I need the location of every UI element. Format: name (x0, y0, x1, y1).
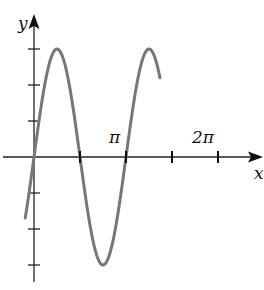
x-axis-label: x (254, 163, 264, 183)
graph-canvas: y x π 2π (0, 0, 264, 290)
two-pi-label: 2π (191, 127, 215, 147)
y-axis-label: y (17, 13, 28, 33)
pi-label: π (108, 127, 121, 147)
